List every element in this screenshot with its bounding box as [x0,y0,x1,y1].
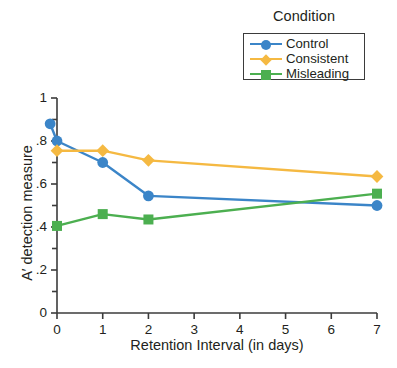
x-tick-label: 2 [138,322,158,337]
legend-title: Condition [243,8,365,24]
y-tick-label: .2 [23,262,47,277]
legend-box: Control Consistent Misleading [243,33,365,80]
legend-swatch-consistent [250,52,282,65]
marker-misleading [98,209,108,219]
legend-item-consistent: Consistent [250,51,348,66]
x-tick-label: 3 [184,322,204,337]
marker-misleading [143,214,153,224]
marker-control [45,118,56,129]
legend-swatch-control [250,37,282,50]
marker-consistent [96,144,109,157]
x-tick-label: 4 [230,322,250,337]
marker-misleading [52,221,62,231]
y-tick-label: 1 [23,90,47,105]
marker-control [372,200,383,211]
marker-consistent [142,154,155,167]
y-tick-label: .8 [23,133,47,148]
x-tick-label: 6 [321,322,341,337]
marker-consistent [371,170,384,183]
legend-swatch-misleading [250,67,282,80]
x-tick-label: 7 [367,322,387,337]
marker-control [143,190,154,201]
legend-label-control: Control [286,37,329,50]
y-tick-label: 0 [23,305,47,320]
legend-item-misleading: Misleading [250,66,349,81]
y-tick-label: .4 [23,219,47,234]
x-tick-label: 5 [276,322,296,337]
y-tick-label: .6 [23,176,47,191]
marker-misleading [372,189,382,199]
x-tick-label: 0 [47,322,67,337]
marker-control [97,157,108,168]
x-axis-title: Retention Interval (in days) [57,337,377,353]
chart-figure: Condition Control Consistent Misleading … [0,0,397,368]
marker-consistent [51,144,64,157]
legend-label-misleading: Misleading [286,67,349,80]
legend-label-consistent: Consistent [286,52,348,65]
x-tick-label: 1 [93,322,113,337]
legend-item-control: Control [250,36,329,51]
